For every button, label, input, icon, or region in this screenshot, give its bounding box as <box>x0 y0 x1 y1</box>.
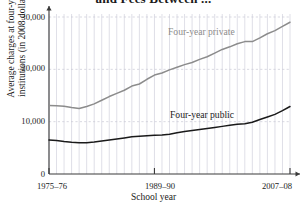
x-tick-mid: 1989–90 <box>145 181 175 191</box>
plot-area: 30,000 20,000 10,000 0 1975–76 1989–90 2… <box>0 0 307 205</box>
series-label-public: Four-year public <box>170 109 234 120</box>
x-tick-labels: 1975–76 1989–90 2007–08 <box>37 181 292 191</box>
y-tick-10000: 10,000 <box>21 116 45 126</box>
y-tick-0: 0 <box>41 169 45 179</box>
x-tick-end: 2007–08 <box>262 181 292 191</box>
y-tick-20000: 20,000 <box>21 63 45 73</box>
vertical-gridlines <box>49 14 290 174</box>
y-tick-30000: 30,000 <box>21 12 45 22</box>
chart-figure: and Fees Between ... Average charges at … <box>0 0 307 205</box>
x-tick-start: 1975–76 <box>37 181 68 191</box>
y-tick-labels: 30,000 20,000 10,000 0 <box>21 12 45 179</box>
series-label-private: Four-year private <box>168 26 235 37</box>
x-axis-title: School year <box>0 192 307 202</box>
